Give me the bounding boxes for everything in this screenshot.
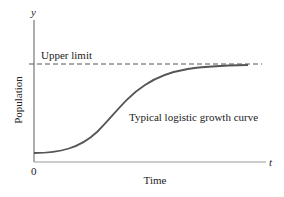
x-axis-label: Time: [144, 174, 167, 186]
y-axis-symbol: y: [30, 6, 36, 18]
origin-label: 0: [31, 165, 37, 177]
upper-limit-label: Upper limit: [41, 49, 92, 61]
curve-label: Typical logistic growth curve: [129, 111, 258, 123]
x-axis-symbol: t: [269, 156, 273, 168]
logistic-chart: y t 0 Time Population Upper limit Typica…: [0, 0, 284, 197]
y-axis-label: Population: [12, 76, 24, 124]
logistic-curve: [34, 65, 248, 153]
